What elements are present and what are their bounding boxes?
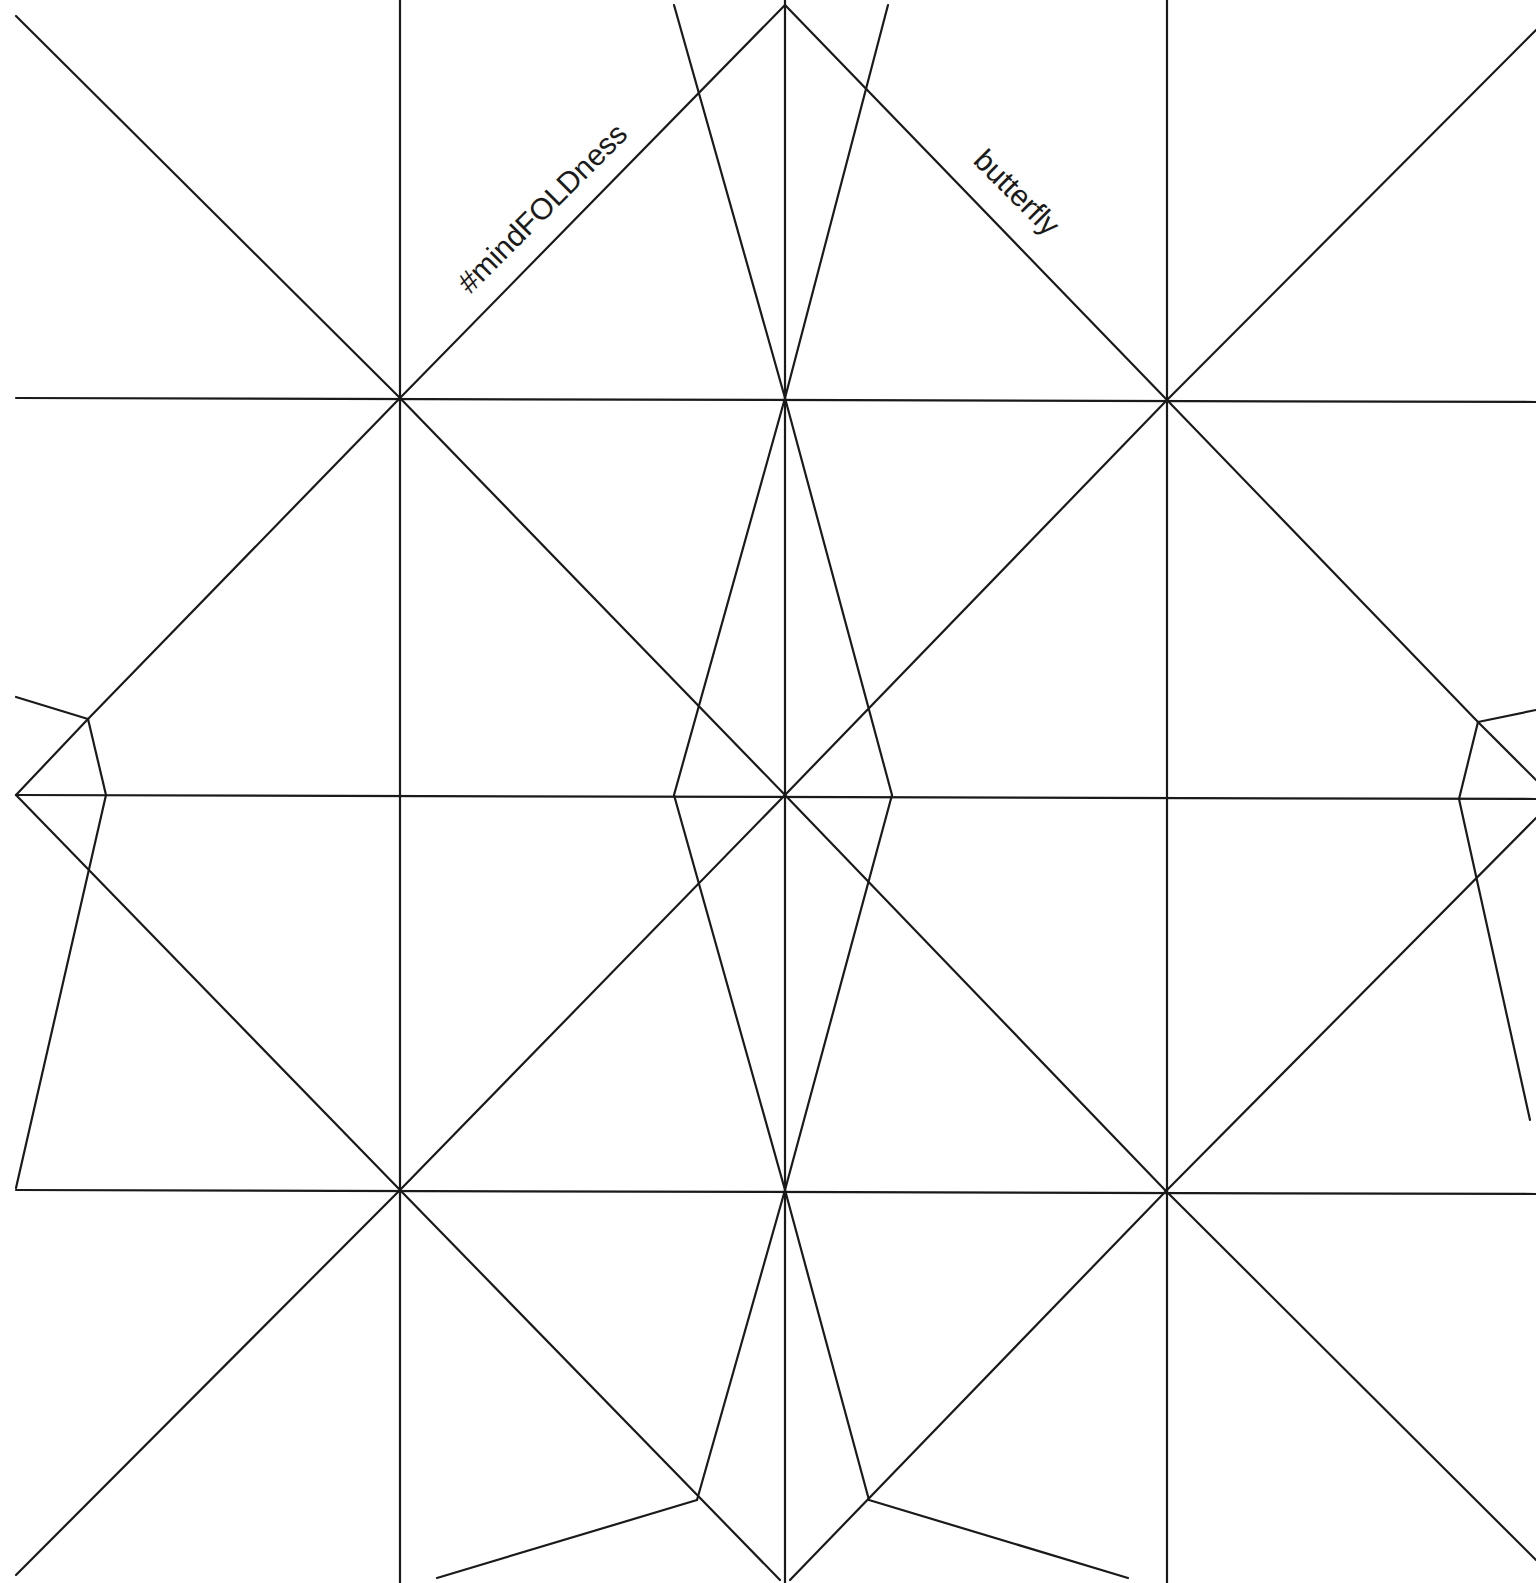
crease-line	[16, 795, 400, 1190]
crease-line	[88, 398, 400, 719]
text-labels: #mindFOLDness butterfly	[451, 117, 1067, 299]
crease-line	[1167, 400, 1478, 722]
crease-pattern-diagram: #mindFOLDness butterfly	[0, 0, 1536, 1583]
crease-line	[674, 795, 785, 1190]
crease-line	[1167, 818, 1536, 1190]
crease-line	[785, 398, 892, 795]
crease-line	[785, 795, 892, 1190]
crease-line	[1478, 722, 1536, 780]
crease-line	[88, 719, 106, 795]
crease-line	[400, 5, 785, 398]
crease-line	[790, 1190, 1167, 1580]
crease-line	[437, 1500, 697, 1578]
crease-line	[869, 1500, 1128, 1578]
crease-line	[785, 5, 1167, 400]
crease-line	[1459, 722, 1478, 799]
crease-line	[16, 795, 106, 1188]
label-mindfoldness: #mindFOLDness	[451, 117, 633, 299]
crease-line	[16, 1190, 1536, 1194]
crease-line	[674, 398, 785, 795]
crease-line	[400, 398, 785, 795]
crease-line	[400, 795, 785, 1190]
crease-line	[785, 1190, 869, 1500]
crease-line	[1167, 30, 1536, 400]
crease-line	[785, 795, 1165, 1190]
crease-line	[697, 1190, 785, 1500]
crease-line	[16, 795, 1536, 799]
crease-lines	[16, 0, 1536, 1583]
crease-pattern-canvas: #mindFOLDness butterfly	[0, 0, 1536, 1583]
crease-line	[16, 16, 400, 398]
crease-line	[16, 398, 1536, 402]
crease-line	[16, 1190, 400, 1575]
crease-line	[1459, 799, 1530, 1120]
crease-line	[785, 5, 888, 398]
crease-line	[16, 697, 88, 719]
crease-line	[785, 400, 1167, 795]
crease-line	[16, 719, 88, 795]
label-butterfly: butterfly	[968, 143, 1067, 242]
crease-line	[1478, 710, 1536, 722]
crease-line	[400, 1190, 780, 1580]
crease-line	[674, 5, 785, 398]
crease-line	[1165, 1190, 1536, 1560]
